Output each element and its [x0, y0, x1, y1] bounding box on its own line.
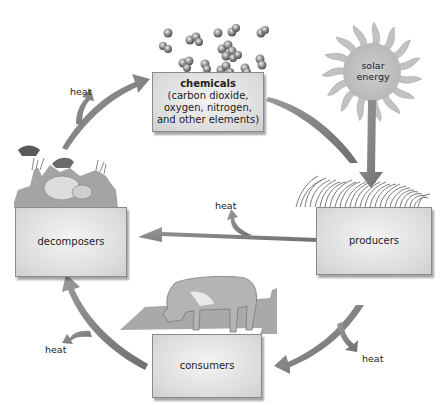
solar-energy-line2: energy [352, 71, 394, 82]
consumers-label: consumers [180, 360, 235, 372]
chemicals-box: chemicals (carbon dioxide, oxygen, nitro… [152, 72, 264, 132]
producers-label: producers [349, 235, 399, 247]
heat-arrow-bottom-left [62, 331, 92, 344]
chemicals-title: chemicals [180, 78, 236, 90]
heat-label-bottom-right: heat [362, 353, 383, 364]
solar-energy-line1: solar [352, 60, 394, 71]
grass-icon [296, 176, 430, 207]
producers-to-decomposers-arrow [138, 227, 318, 242]
chemicals-line-2: oxygen, nitrogen, [164, 102, 252, 114]
producers-to-consumers-arrow [274, 305, 364, 374]
heat-label-middle: heat [215, 200, 236, 211]
chemicals-line-3: and other elements) [157, 114, 259, 126]
heat-arrow-middle [227, 209, 252, 236]
producers-box: producers [316, 207, 432, 275]
chemicals-line-1: (carbon dioxide, [168, 90, 249, 102]
consumers-box: consumers [152, 334, 262, 398]
heat-label-top-left: heat [70, 86, 91, 97]
heat-label-bottom-left: heat [45, 344, 66, 355]
decomposers-box: decomposers [15, 207, 127, 277]
solar-energy-label: solar energy [352, 60, 394, 82]
decomposer-scene-icon [14, 146, 118, 209]
decomposers-label: decomposers [37, 236, 104, 248]
